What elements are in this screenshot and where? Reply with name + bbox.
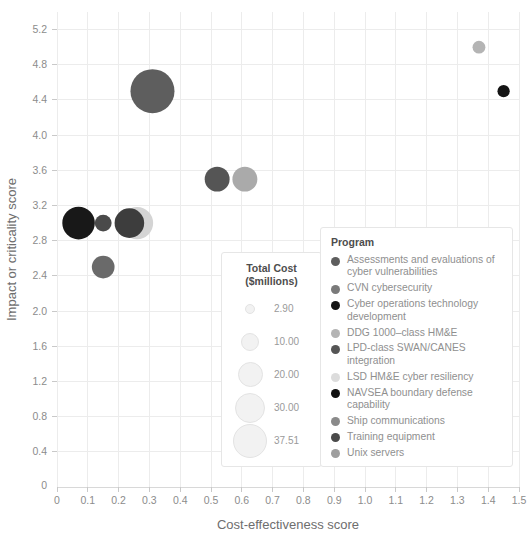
x-tick-label: 0.1 — [80, 494, 95, 506]
program-legend-item[interactable]: LSD HM&E cyber resiliency — [331, 371, 503, 383]
program-legend-item[interactable]: Assessments and evaluations of cyber vul… — [331, 254, 503, 279]
x-tick-label: 0.6 — [234, 494, 249, 506]
program-legend-swatch — [331, 285, 340, 294]
size-legend-items: 2.9010.0020.0030.0037.51 — [230, 292, 313, 457]
size-legend-swatch — [233, 424, 267, 458]
size-legend-title: Total Cost ($millions) — [230, 262, 313, 288]
program-legend-label: Assessments and evaluations of cyber vul… — [347, 254, 503, 279]
x-tick-label: 0.8 — [296, 494, 311, 506]
program-legend-item[interactable]: Unix servers — [331, 447, 503, 459]
program-legend-item[interactable]: CVN cybersecurity — [331, 282, 503, 294]
x-tick-label: 1.3 — [450, 494, 465, 506]
program-legend-label: DDG 1000–class HM&E — [347, 327, 457, 339]
bubble-point: Unix servers — [92, 256, 115, 279]
size-legend-swatch-cell — [230, 424, 270, 458]
y-tick-label: 1.2 — [32, 375, 47, 387]
x-tick-label: 1.4 — [481, 494, 496, 506]
y-tick-label: 2.0 — [32, 305, 47, 317]
program-legend-item[interactable]: DDG 1000–class HM&E — [331, 327, 503, 339]
bubble-point: Ship communications — [232, 167, 257, 192]
size-legend-swatch-cell — [230, 393, 270, 423]
program-legend-label: Training equipment — [347, 431, 435, 443]
y-tick-label: 4.0 — [32, 129, 47, 141]
program-legend-swatch — [331, 257, 340, 266]
x-tick-label: 0 — [54, 494, 60, 506]
size-legend-value: 20.00 — [274, 369, 299, 380]
program-legend-swatch — [331, 329, 340, 338]
program-legend-label: LPD-class SWAN/CANES integration — [347, 342, 503, 367]
size-legend-item: 10.00 — [230, 325, 313, 358]
bubble-point: NAVSEA boundary defense capability — [62, 207, 95, 240]
bubble-point: Training equipment — [115, 208, 145, 238]
size-legend-value: 37.51 — [274, 435, 299, 446]
size-legend-value: 2.90 — [274, 303, 293, 314]
program-legend-swatch — [331, 373, 340, 382]
x-tick-label: 1.1 — [388, 494, 403, 506]
x-tick-label: 1.0 — [358, 494, 373, 506]
program-legend-swatch — [331, 449, 340, 458]
size-legend-title-line1: Total Cost — [246, 262, 297, 274]
x-tick-label: 1.5 — [512, 494, 527, 506]
y-tick-label: 1.6 — [32, 340, 47, 352]
size-legend-swatch — [235, 393, 265, 423]
bubble-point: LPD-class SWAN/CANES integration — [205, 167, 230, 192]
program-legend-label: CVN cybersecurity — [347, 282, 432, 294]
program-legend-item[interactable]: NAVSEA boundary defense capability — [331, 387, 503, 412]
program-legend-item[interactable]: LPD-class SWAN/CANES integration — [331, 342, 503, 367]
bubble-point: Cyber operations technology development — [497, 85, 509, 97]
y-tick-label: 0 — [41, 479, 47, 491]
program-legend-label: LSD HM&E cyber resiliency — [347, 371, 473, 383]
size-legend-item: 37.51 — [230, 424, 313, 457]
size-legend-value: 10.00 — [274, 336, 299, 347]
program-legend-item[interactable]: Cyber operations technology development — [331, 298, 503, 323]
x-tick-label: 0.5 — [204, 494, 219, 506]
program-legend-swatch — [331, 389, 340, 398]
program-legend-swatch — [331, 433, 340, 442]
size-legend-title-line2: ($millions) — [245, 275, 298, 287]
program-legend-swatch — [331, 345, 340, 354]
size-legend-swatch-cell — [230, 304, 270, 314]
bubble-point: Assessments and evaluations of cyber vul… — [130, 69, 174, 113]
size-legend-item: 30.00 — [230, 391, 313, 424]
bubble-chart: Assessments and evaluations of cyber vul… — [0, 0, 531, 542]
size-legend-swatch — [245, 304, 255, 314]
program-legend-swatch — [331, 301, 340, 310]
bubble-point: CVN cybersecurity — [95, 215, 112, 232]
size-legend-panel: Total Cost ($millions) 2.9010.0020.0030.… — [221, 252, 322, 467]
program-legend-items: Assessments and evaluations of cyber vul… — [331, 254, 503, 459]
program-legend-label: Unix servers — [347, 447, 404, 459]
size-legend-item: 20.00 — [230, 358, 313, 391]
x-tick-label: 0.2 — [111, 494, 126, 506]
y-axis-title: Impact or criticality score — [4, 178, 19, 321]
program-legend-item[interactable]: Training equipment — [331, 431, 503, 443]
program-legend-swatch — [331, 417, 340, 426]
program-legend-panel: Program Assessments and evaluations of c… — [320, 227, 513, 467]
y-tick-label: 2.8 — [32, 234, 47, 246]
bubble-point: DDG 1000-class HM&E — [473, 41, 486, 54]
size-legend-swatch-cell — [230, 333, 270, 351]
y-tick-label: 0.4 — [32, 445, 47, 457]
x-tick-label: 0.7 — [265, 494, 280, 506]
y-tick-label: 4.8 — [32, 58, 47, 70]
x-tick-label: 0.4 — [173, 494, 188, 506]
size-legend-value: 30.00 — [274, 402, 299, 413]
program-legend-label: NAVSEA boundary defense capability — [347, 387, 503, 412]
program-legend-item[interactable]: Ship communications — [331, 415, 503, 427]
x-axis-title: Cost-effectiveness score — [217, 517, 359, 532]
x-tick-label: 0.9 — [327, 494, 342, 506]
program-legend-title: Program — [331, 236, 503, 249]
x-tick-label: 1.2 — [419, 494, 434, 506]
y-tick-label: 4.4 — [32, 93, 47, 105]
program-legend-label: Ship communications — [347, 415, 445, 427]
y-tick-label: 3.6 — [32, 164, 47, 176]
x-tick-label: 0.3 — [142, 494, 157, 506]
y-tick-label: 3.2 — [32, 199, 47, 211]
y-tick-label: 2.4 — [32, 269, 47, 281]
size-legend-swatch — [238, 362, 263, 387]
size-legend-swatch-cell — [230, 362, 270, 387]
size-legend-item: 2.90 — [230, 292, 313, 325]
y-tick-label: 5.2 — [32, 23, 47, 35]
y-tick-label: 0.8 — [32, 410, 47, 422]
size-legend-swatch — [241, 333, 259, 351]
program-legend-label: Cyber operations technology development — [347, 298, 503, 323]
